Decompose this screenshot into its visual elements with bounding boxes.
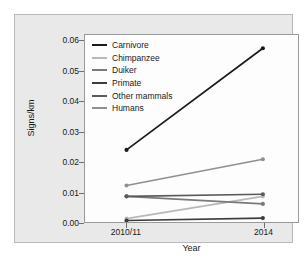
legend-item-other-mammals: Other mammals [92, 89, 188, 102]
data-point-marker [261, 216, 265, 220]
legend-item-label: Duiker [112, 65, 137, 75]
y-axis-tick-mark [79, 162, 84, 163]
x-axis-title: Year [84, 243, 299, 253]
x-axis-tick-label: 2010/11 [111, 227, 141, 237]
y-axis-tick-mark [79, 193, 84, 194]
y-axis-tick-label: 0.01 [45, 188, 79, 197]
data-point-marker [261, 192, 265, 196]
x-axis-tick-labels: 2010/112014 [84, 227, 299, 241]
data-point-marker [124, 183, 128, 187]
legend-line-swatch [92, 95, 107, 97]
legend-item-label: Other mammals [112, 91, 172, 101]
legend-item-humans: Humans [92, 102, 188, 115]
series-primate [124, 216, 264, 222]
legend-line-swatch [92, 69, 107, 71]
y-axis-tick-mark [79, 71, 84, 72]
legend-item-duiker: Duiker [92, 64, 188, 77]
y-axis-tick-mark [79, 223, 84, 224]
legend-item-label: Carnivore [112, 40, 149, 50]
x-axis-tick-mark [126, 223, 127, 228]
data-point-marker [124, 148, 128, 152]
y-axis-tick-label: 0.05 [45, 66, 79, 75]
figure: 0.000.010.020.030.040.050.06 Signs/km 20… [0, 0, 307, 266]
y-axis-tick-label: 0.03 [45, 127, 79, 136]
y-axis-tick-label: 0.00 [45, 219, 79, 228]
data-point-marker [261, 46, 265, 50]
y-axis-title: Signs/km [26, 88, 36, 148]
legend-line-swatch [92, 82, 107, 84]
x-axis-tick-label: 2014 [254, 227, 273, 237]
legend-line-swatch [92, 57, 107, 59]
y-axis-tick-mark [79, 101, 84, 102]
data-point-marker [261, 202, 265, 206]
legend-item-carnivore: Carnivore [92, 39, 188, 52]
data-point-marker [124, 194, 128, 198]
legend-item-chimpanzee: Chimpanzee [92, 52, 188, 65]
legend-item-label: Chimpanzee [112, 53, 160, 63]
legend-line-swatch [92, 44, 107, 46]
legend-line-swatch [92, 107, 107, 109]
x-axis-tick-mark [264, 223, 265, 228]
series-chimpanzee [124, 194, 264, 220]
series-line [127, 159, 263, 185]
series-line [127, 194, 263, 196]
data-point-marker [261, 157, 265, 161]
y-axis-tick-label: 0.06 [45, 36, 79, 45]
legend-item-label: Humans [112, 103, 144, 113]
chart-panel: 0.000.010.020.030.040.050.06 Signs/km 20… [14, 14, 293, 243]
y-axis-tick-labels: 0.000.010.020.030.040.050.06 [41, 34, 79, 223]
y-axis-tick-label: 0.02 [45, 158, 79, 167]
chart-legend: CarnivoreChimpanzeeDuikerPrimateOther ma… [92, 39, 188, 115]
y-axis-tick-mark [79, 132, 84, 133]
legend-item-primate: Primate [92, 77, 188, 90]
series-humans [124, 157, 264, 187]
y-axis-tick-label: 0.04 [45, 97, 79, 106]
series-line [127, 218, 263, 220]
y-axis-tick-mark [79, 40, 84, 41]
legend-item-label: Primate [112, 78, 141, 88]
